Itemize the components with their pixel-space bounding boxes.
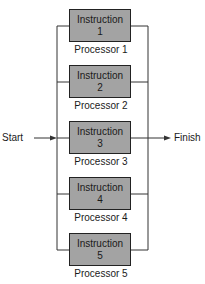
- instruction-number: 3: [97, 138, 103, 150]
- instruction-label: Instruction: [77, 126, 123, 138]
- instruction-label: Instruction: [77, 238, 123, 250]
- instruction-number: 4: [97, 194, 103, 206]
- instruction-label: Instruction: [77, 182, 123, 194]
- processor-label-5: Processor 5: [55, 268, 147, 279]
- processor-label-1: Processor 1: [55, 44, 147, 55]
- processor-label-4: Processor 4: [55, 212, 147, 223]
- processor-label-3: Processor 3: [55, 156, 147, 167]
- start-label: Start: [2, 132, 23, 143]
- instruction-box-2: Instruction 2: [69, 65, 131, 98]
- instruction-box-4: Instruction 4: [69, 177, 131, 210]
- instruction-box-5: Instruction 5: [69, 233, 131, 266]
- processor-label-2: Processor 2: [55, 100, 147, 111]
- instruction-number: 5: [97, 250, 103, 262]
- instruction-number: 2: [97, 82, 103, 94]
- instruction-label: Instruction: [77, 70, 123, 82]
- start-arrow-icon: [50, 136, 57, 141]
- finish-label: Finish: [174, 132, 201, 143]
- instruction-box-1: Instruction 1: [69, 9, 131, 42]
- finish-arrow-icon: [164, 136, 171, 141]
- instruction-box-3: Instruction 3: [69, 121, 131, 154]
- instruction-number: 1: [97, 26, 103, 38]
- instruction-label: Instruction: [77, 14, 123, 26]
